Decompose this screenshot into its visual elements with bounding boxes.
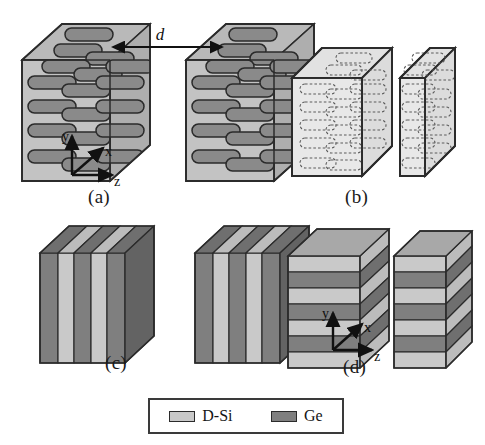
panel-label-a: (a) [88,186,110,208]
panel-c [40,226,309,363]
nanowire [96,76,144,89]
panel-d: y x z [288,229,472,368]
layer-dsi [288,256,360,272]
nanowire [96,100,144,113]
axis-label-z: z [374,349,380,364]
panel-a: d y x z [22,24,318,189]
layer-ge [195,253,213,363]
superlattice-front [40,253,125,363]
layer-ge [394,336,446,352]
legend-label-dsi: D-Si [202,407,232,425]
layer-ge [107,253,125,363]
superlattice-front [195,253,280,363]
layer-ge [40,253,58,363]
nanowire [229,28,277,41]
layer-ge [288,272,360,288]
distance-label: d [156,25,165,44]
layer-ge [229,253,246,363]
layer-dsi [288,320,360,336]
layer-dsi [394,352,446,368]
axis-label-x: x [105,144,112,159]
figure-canvas: d y x z [0,0,485,445]
legend-box: D-Si Ge [148,398,344,434]
layer-dsi [58,253,74,363]
nanowire [106,60,154,73]
legend-item-ge: Ge [271,407,323,425]
panel-label-d: (d) [343,356,366,378]
layer-dsi [246,253,262,363]
block-front-face [400,78,425,176]
axis-label-y: y [62,129,69,144]
layer-dsi [394,320,446,336]
legend-item-dsi: D-Si [169,407,232,425]
nanowire [65,28,113,41]
layer-ge [394,304,446,320]
panel-b-block-left [292,48,392,176]
panel-b-block-right [400,48,455,176]
panel-b [292,48,455,176]
layer-ge [262,253,280,363]
layer-dsi [394,288,446,304]
superlattice-front [394,256,446,368]
ge-swatch [271,411,297,422]
layer-dsi [91,253,107,363]
layer-ge [74,253,91,363]
panel-label-b: (b) [345,186,368,208]
panel-d-block-left [288,229,389,368]
nanowire [96,124,144,137]
axis-label-x: x [364,320,371,335]
layer-dsi [288,288,360,304]
axis-label-y: y [322,306,329,321]
dsi-swatch [169,411,195,422]
axis-label-z: z [114,174,120,189]
legend-label-ge: Ge [304,407,323,425]
panel-c-block-left [40,226,154,363]
panel-label-c: (c) [105,352,127,374]
layer-dsi [394,256,446,272]
panel-d-block-right [394,231,472,368]
layer-dsi [213,253,229,363]
layer-ge [394,272,446,288]
